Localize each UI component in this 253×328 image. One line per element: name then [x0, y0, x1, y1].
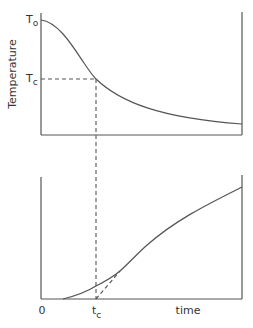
- t0-label: To: [25, 13, 39, 28]
- origin-label: 0: [39, 304, 46, 317]
- y-axis-label: Temperature: [6, 39, 19, 110]
- tangent-dashed: [96, 271, 120, 299]
- top-plot: [41, 12, 242, 135]
- cooling-diagram: Temperature To Tc 0 tc time: [0, 0, 253, 328]
- x-axis-label: time: [176, 304, 201, 317]
- tc-time-label: tc: [92, 304, 101, 320]
- tc-temp-label: Tc: [25, 72, 38, 87]
- growth-curve: [63, 187, 242, 299]
- temperature-curve: [41, 20, 242, 124]
- bottom-plot: [41, 175, 242, 299]
